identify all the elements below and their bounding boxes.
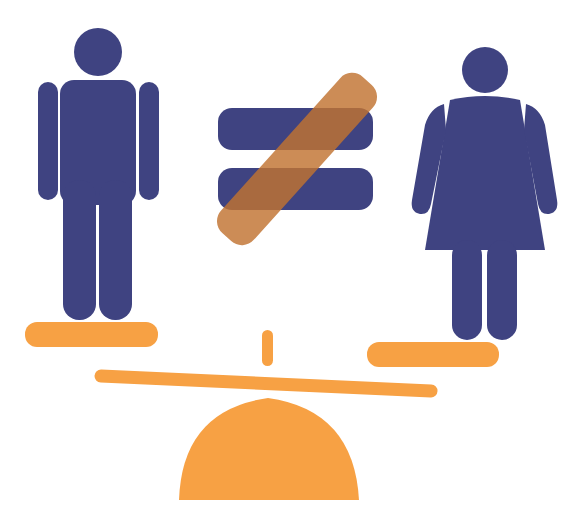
seesaw-beam bbox=[101, 376, 431, 391]
illustration-svg bbox=[0, 0, 582, 526]
female-figure-icon bbox=[412, 47, 558, 340]
fulcrum-dome bbox=[179, 398, 359, 500]
not-equal-icon bbox=[210, 66, 383, 252]
fulcrum-tick bbox=[262, 330, 273, 366]
right-platform bbox=[367, 342, 499, 367]
male-figure-icon bbox=[38, 28, 159, 320]
left-platform bbox=[25, 322, 158, 347]
gender-inequality-illustration bbox=[0, 0, 582, 526]
